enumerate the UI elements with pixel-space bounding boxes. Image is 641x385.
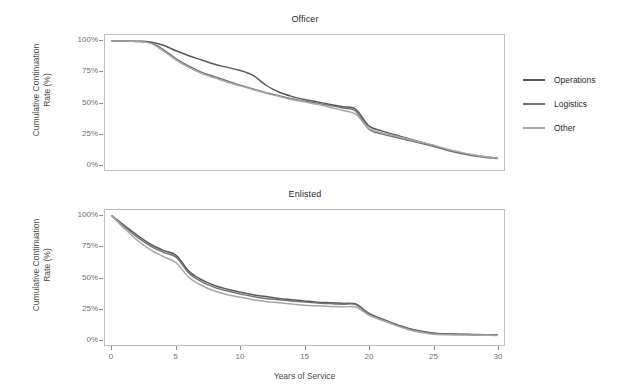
legend-label: Logistics	[545, 99, 587, 109]
y-tick-label: 0%	[86, 335, 98, 344]
facet-title-officer: Officer	[104, 14, 506, 24]
x-tick-label: 25	[419, 352, 449, 361]
y-tick-label: 100%	[78, 210, 98, 219]
legend-item-other[interactable]: Other	[523, 116, 641, 140]
x-tick-label: 20	[354, 352, 384, 361]
y-tick-mark	[99, 165, 103, 166]
x-tick-mark	[369, 346, 370, 350]
series-line-operations	[112, 216, 497, 335]
series-line-other	[112, 216, 497, 335]
legend-item-operations[interactable]: Operations	[523, 68, 641, 92]
chart-figure: Officer Cumulative Continuation Rate (%)…	[0, 0, 641, 385]
x-axis-label: Years of Service	[104, 371, 505, 381]
y-tick-label: 50%	[82, 273, 98, 282]
x-tick-mark	[305, 346, 306, 350]
x-tick-mark	[176, 346, 177, 350]
legend-label: Other	[545, 123, 575, 133]
y-tick-mark	[99, 309, 103, 310]
legend-line-icon	[523, 75, 545, 85]
y-tick-mark	[99, 246, 103, 247]
y-ticks-enlisted: 0%25%50%75%100%	[60, 209, 98, 346]
legend-line-icon	[523, 123, 545, 133]
x-tick-label: 0	[96, 352, 126, 361]
y-tick-mark	[99, 278, 103, 279]
y-axis-label-line2: Rate (%)	[42, 73, 52, 107]
y-tick-mark	[99, 40, 103, 41]
y-axis-label-line1: Cumulative Continuation	[31, 44, 41, 137]
y-tick-mark	[99, 71, 103, 72]
facet-title-enlisted: Enlisted	[104, 189, 506, 199]
x-tick-mark	[434, 346, 435, 350]
y-axis-label-enlisted: Cumulative Continuation Rate (%)	[31, 190, 53, 340]
y-tick-mark	[99, 134, 103, 135]
y-tick-label: 75%	[82, 66, 98, 75]
legend-officer: OperationsLogisticsOther	[523, 68, 641, 140]
x-tick-mark	[111, 346, 112, 350]
y-tick-label: 50%	[82, 98, 98, 107]
plot-panel-enlisted	[104, 209, 505, 346]
y-tick-mark	[99, 103, 103, 104]
legend-label: Operations	[545, 75, 596, 85]
legend-item-logistics[interactable]: Logistics	[523, 92, 641, 116]
y-tick-label: 100%	[78, 35, 98, 44]
x-tick-label: 15	[290, 352, 320, 361]
facet-officer: Officer Cumulative Continuation Rate (%)…	[0, 0, 641, 190]
facet-enlisted: Enlisted Cumulative Continuation Rate (%…	[0, 178, 641, 385]
y-axis-label-line1: Cumulative Continuation	[31, 219, 41, 312]
x-tick-mark	[240, 346, 241, 350]
legend-line-icon	[523, 99, 545, 109]
y-tick-label: 25%	[82, 129, 98, 138]
x-tick-label: 30	[483, 352, 513, 361]
y-axis-label-officer: Cumulative Continuation Rate (%)	[31, 15, 53, 165]
y-tick-label: 0%	[86, 160, 98, 169]
y-tick-mark	[99, 215, 103, 216]
y-tick-mark	[99, 340, 103, 341]
y-axis-label-line2: Rate (%)	[42, 248, 52, 282]
plot-panel-officer	[104, 34, 505, 171]
y-ticks-officer: 0%25%50%75%100%	[60, 34, 98, 171]
x-tick-mark	[498, 346, 499, 350]
y-tick-label: 75%	[82, 241, 98, 250]
series-line-operations	[112, 41, 497, 158]
x-tick-label: 5	[161, 352, 191, 361]
x-tick-label: 10	[225, 352, 255, 361]
y-tick-label: 25%	[82, 304, 98, 313]
series-line-logistics	[112, 216, 497, 335]
